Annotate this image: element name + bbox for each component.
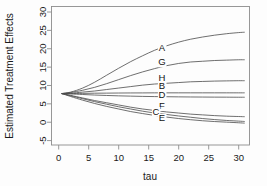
y-tick-label: 20: [37, 43, 48, 54]
x-tick-label: 5: [86, 152, 91, 163]
curve-label-e: E: [159, 112, 165, 123]
y-tick-label: 10: [37, 80, 48, 91]
x-tick-label: 20: [173, 152, 184, 163]
line-chart: -5051015202530 051015202530 AGHBDFCE tau…: [0, 0, 267, 186]
y-tick-label: 30: [37, 7, 48, 18]
curve-label-d: D: [158, 89, 165, 100]
y-tick-label: 0: [37, 120, 48, 125]
y-tick-label: 25: [37, 25, 48, 36]
x-tick-label: 25: [203, 152, 214, 163]
chart-container: -5051015202530 051015202530 AGHBDFCE tau…: [0, 0, 267, 186]
x-tick-label: 10: [113, 152, 124, 163]
x-tick-label: 30: [233, 152, 244, 163]
curve-label-g: G: [158, 56, 165, 67]
y-axis-label: Estimated Treatment Effects: [4, 13, 15, 138]
x-axis-label: tau: [143, 171, 157, 182]
curve-label-a: A: [159, 42, 166, 53]
y-tick-label: 5: [37, 101, 48, 106]
y-tick-label: -5: [37, 136, 48, 144]
x-tick-label: 0: [56, 152, 61, 163]
x-tick-label: 15: [143, 152, 154, 163]
y-tick-label: 15: [37, 62, 48, 73]
